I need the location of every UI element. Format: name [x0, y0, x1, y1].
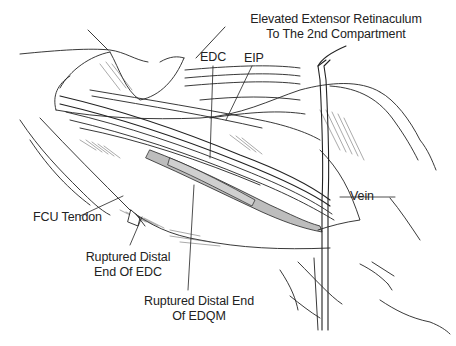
label-retinaculum-line2: To The 2nd Compartment	[232, 27, 440, 42]
label-retinaculum-line1: Elevated Extensor Retinaculum	[232, 12, 440, 27]
label-ruptured-edqm-line1: Ruptured Distal End	[130, 294, 268, 309]
label-edc: EDC	[200, 50, 226, 65]
label-ruptured-edc: Ruptured Distal End Of EDC	[76, 250, 180, 280]
label-fcu-tendon: FCU Tendon	[33, 210, 102, 225]
label-eip: EIP	[244, 51, 264, 66]
label-ruptured-edc-line2: End Of EDC	[76, 265, 180, 280]
label-ruptured-edc-line1: Ruptured Distal	[76, 250, 180, 265]
label-ruptured-edqm: Ruptured Distal End Of EDQM	[130, 294, 268, 324]
label-ruptured-edqm-line2: Of EDQM	[130, 309, 268, 324]
label-vein: Vein	[350, 189, 374, 204]
surgical-illustration: Elevated Extensor Retinaculum To The 2nd…	[0, 0, 456, 346]
label-retinaculum: Elevated Extensor Retinaculum To The 2nd…	[232, 12, 440, 42]
